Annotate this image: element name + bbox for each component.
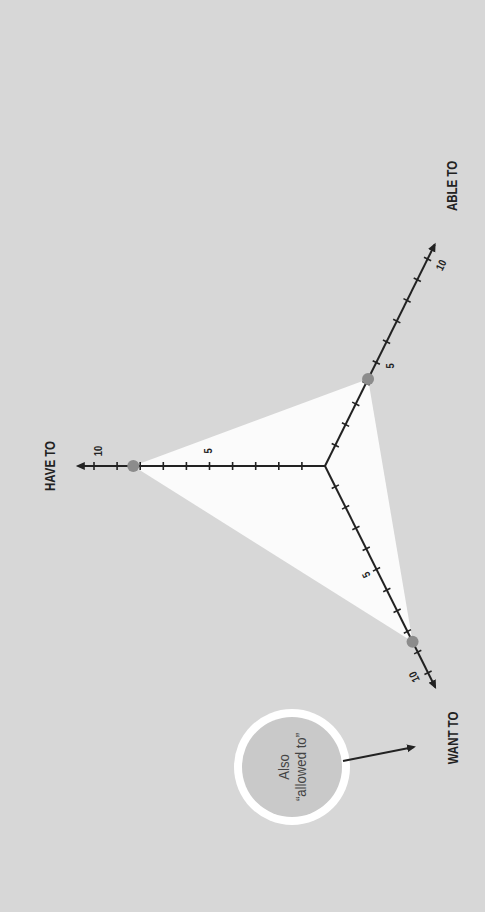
axis-label-want-to: WANT TO (445, 712, 461, 765)
value-triangle (133, 379, 412, 642)
axis-able-to (325, 245, 435, 466)
axis-label-able-to: ABLE TO (444, 161, 460, 211)
annotation-line-1: Also (275, 733, 292, 801)
have-to-tick-5: 5 (202, 448, 214, 453)
annotation-text: Also “allowed to” (275, 728, 309, 806)
data-point-able-to (362, 373, 374, 385)
data-point-want-to (407, 636, 419, 648)
annotation-arrow (343, 747, 414, 761)
able-to-tick-5: 5 (384, 363, 396, 368)
triangle-radar-diagram (0, 0, 491, 912)
axis-label-have-to: HAVE TO (42, 441, 58, 491)
have-to-tick-10: 10 (92, 446, 104, 456)
annotation-line-2: “allowed to” (292, 733, 309, 801)
data-point-have-to (127, 460, 139, 472)
